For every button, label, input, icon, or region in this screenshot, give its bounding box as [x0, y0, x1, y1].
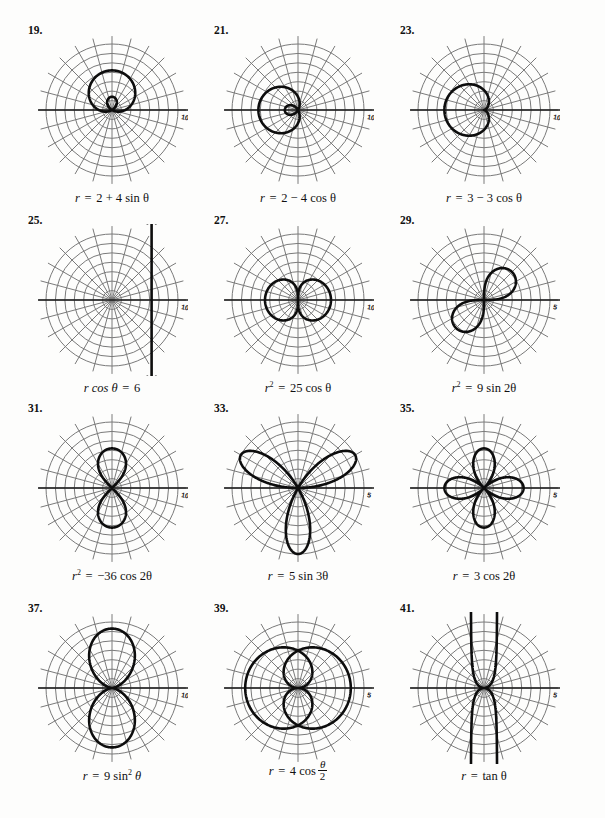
polar-graph: 05 [408, 612, 560, 764]
polar-plot-cell: 27.010r2 = 25 cos θ [208, 212, 388, 402]
equation-label: r = 3 − 3 cos θ [394, 191, 574, 206]
svg-text:10: 10 [366, 113, 374, 121]
equation-label: r = 9 sin2 θ [22, 768, 202, 784]
equation-label: r = 5 sin 3θ [208, 569, 388, 584]
polar-plot-cell: 41.05r = tan θ [394, 600, 574, 790]
svg-text:5: 5 [366, 491, 371, 499]
polar-graph: 010 [36, 612, 188, 764]
equation-label: r = 4 cosθ2 [208, 760, 388, 784]
polar-plot-cell: 31.010r2 = −36 cos 2θ [22, 400, 202, 590]
polar-plot-cell: 25.010r cos θ = 6 [22, 212, 202, 402]
polar-plot-cell: 29.05r2 = 9 sin 2θ [394, 212, 574, 402]
polar-plot-cell: 23.010r = 3 − 3 cos θ [394, 22, 574, 212]
polar-graph: 05 [408, 224, 560, 376]
equation-label: r cos θ = 6 [22, 381, 202, 396]
svg-text:5: 5 [552, 691, 557, 699]
polar-graph: 010 [36, 412, 188, 564]
svg-text:10: 10 [180, 113, 188, 121]
svg-text:10: 10 [366, 303, 374, 311]
equation-label: r2 = −36 cos 2θ [22, 568, 202, 584]
polar-graph: 05 [222, 612, 374, 764]
polar-graph: 010 [222, 34, 374, 186]
equation-label: r2 = 25 cos θ [208, 380, 388, 396]
polar-graph: 010 [408, 34, 560, 186]
polar-grid: 010 [38, 226, 188, 374]
svg-text:10: 10 [180, 691, 188, 699]
svg-text:10: 10 [180, 491, 188, 499]
svg-text:10: 10 [552, 113, 560, 121]
svg-text:5: 5 [366, 691, 371, 699]
polar-plot-cell: 37.010r = 9 sin2 θ [22, 600, 202, 790]
equation-label: r = 2 + 4 sin θ [22, 191, 202, 206]
equation-label: r = 3 cos 2θ [394, 569, 574, 584]
polar-graph: 010 [36, 34, 188, 186]
svg-text:10: 10 [180, 303, 188, 311]
svg-text:5: 5 [552, 491, 557, 499]
polar-plot-cell: 21.010r = 2 − 4 cos θ [208, 22, 388, 212]
svg-text:5: 5 [552, 303, 557, 311]
equation-label: r2 = 9 sin 2θ [394, 380, 574, 396]
polar-graph: 010 [36, 224, 188, 376]
polar-plot-cell: 33.05r = 5 sin 3θ [208, 400, 388, 590]
polar-plot-cell: 39.05r = 4 cosθ2 [208, 600, 388, 790]
polar-graph: 05 [408, 412, 560, 564]
polar-plot-cell: 19.010r = 2 + 4 sin θ [22, 22, 202, 212]
answer-page: 19.010r = 2 + 4 sin θ21.010r = 2 − 4 cos… [0, 0, 605, 818]
equation-label: r = 2 − 4 cos θ [208, 191, 388, 206]
polar-graph: 010 [222, 224, 374, 376]
equation-label: r = tan θ [394, 769, 574, 784]
polar-plot-cell: 35.05r = 3 cos 2θ [394, 400, 574, 590]
polar-graph: 05 [222, 412, 374, 564]
